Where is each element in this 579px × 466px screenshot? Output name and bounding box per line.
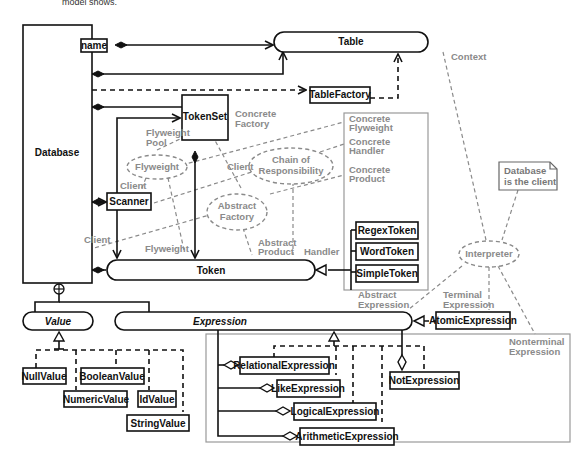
role-handler: Handler: [304, 246, 340, 257]
qualifier-name: name: [81, 39, 108, 52]
svg-text:Chain of: Chain of: [272, 154, 311, 165]
role-concrete-flyweight-2: Flyweight: [349, 122, 394, 133]
role-client-scanner: Client: [120, 180, 147, 191]
role-concrete-handler-2: Handler: [349, 145, 385, 156]
class-database[interactable]: Database: [23, 25, 92, 283]
uml-class-diagram: model shows.: [0, 0, 579, 466]
svg-text:RegexToken: RegexToken: [358, 225, 417, 236]
class-not-expression[interactable]: NotExpression: [389, 372, 460, 389]
svg-text:ArithmeticExpression: ArithmeticExpression: [295, 431, 398, 442]
role-terminal-expression-2: Expression: [443, 299, 494, 310]
svg-text:Database: Database: [504, 165, 546, 176]
svg-text:SimpleToken: SimpleToken: [356, 268, 418, 279]
svg-text:StringValue: StringValue: [130, 418, 185, 429]
svg-text:NumericValue: NumericValue: [63, 394, 130, 405]
svg-text:Scanner: Scanner: [109, 196, 149, 207]
pattern-interpreter: Interpreter: [459, 241, 519, 267]
role-client-chain: Client: [227, 161, 254, 172]
role-abstract-expression-2: Expression: [358, 299, 409, 310]
role-context: Context: [451, 51, 487, 62]
class-logical-expression[interactable]: LogicalExpression: [291, 403, 380, 420]
class-boolean-value[interactable]: BooleanValue: [79, 368, 145, 384]
pattern-abstract-factory: Abstract Factory: [207, 194, 267, 230]
role-nonterminal-expression-2: Expression: [509, 346, 560, 357]
class-word-token[interactable]: WordToken: [356, 243, 418, 260]
svg-text:BooleanValue: BooleanValue: [79, 371, 145, 382]
generalization-arrow-atomic: [414, 316, 424, 326]
class-null-value[interactable]: NullValue: [21, 368, 66, 384]
role-flyweight-token: Flyweight: [145, 243, 190, 254]
svg-text:AtomicExpression: AtomicExpression: [429, 315, 517, 326]
svg-text:Value: Value: [45, 316, 72, 327]
class-table-factory[interactable]: TableFactory: [309, 87, 371, 103]
svg-text:Interpreter: Interpreter: [465, 248, 513, 259]
role-client-database: Client: [84, 234, 111, 245]
class-string-value[interactable]: StringValue: [127, 415, 189, 431]
role-abstract-product-2: Product: [258, 246, 295, 257]
containment-circle-icon: [54, 284, 64, 294]
class-numeric-value[interactable]: NumericValue: [63, 391, 130, 407]
generalization-arrow-token: [316, 265, 326, 275]
class-token[interactable]: Token: [107, 260, 315, 280]
svg-text:is the client: is the client: [504, 176, 557, 187]
svg-text:LikeExpression: LikeExpression: [271, 383, 345, 394]
svg-text:WordToken: WordToken: [360, 246, 414, 257]
role-flyweight-pool-2: Pool: [146, 137, 167, 148]
generalization-arrow-expression: [329, 332, 339, 341]
class-relational-expression[interactable]: RelationalExpression: [233, 357, 335, 374]
svg-text:TableFactory: TableFactory: [309, 89, 371, 100]
svg-text:Factory: Factory: [220, 211, 255, 222]
svg-text:TokenSet: TokenSet: [183, 111, 228, 122]
svg-text:Expression: Expression: [193, 316, 247, 327]
svg-text:Table: Table: [338, 36, 364, 47]
svg-text:RelationalExpression: RelationalExpression: [233, 360, 335, 371]
svg-text:Database: Database: [35, 147, 80, 158]
svg-text:Responsibility: Responsibility: [259, 165, 325, 176]
truncated-header-text: model shows.: [62, 0, 117, 7]
class-table[interactable]: Table: [274, 32, 428, 52]
class-expression[interactable]: Expression: [115, 312, 412, 330]
generalization-arrow-value: [54, 332, 64, 341]
class-regex-token[interactable]: RegexToken: [356, 222, 418, 239]
class-id-value[interactable]: IdValue: [138, 391, 176, 407]
note-database-is-client: Database is the client: [499, 162, 557, 190]
svg-text:name: name: [81, 40, 108, 51]
class-like-expression[interactable]: LikeExpression: [271, 380, 345, 397]
role-concrete-product-2: Product: [349, 173, 386, 184]
class-arithmetic-expression[interactable]: ArithmeticExpression: [295, 428, 398, 445]
svg-text:Token: Token: [197, 265, 226, 276]
svg-text:LogicalExpression: LogicalExpression: [291, 406, 380, 417]
class-simple-token[interactable]: SimpleToken: [356, 265, 418, 282]
pattern-flyweight: Flyweight: [127, 155, 187, 179]
class-atomic-expression[interactable]: AtomicExpression: [429, 312, 517, 329]
svg-text:Flyweight: Flyweight: [135, 161, 180, 172]
svg-text:NullValue: NullValue: [21, 371, 66, 382]
pattern-chain-of-responsibility: Chain of Responsibility: [249, 148, 333, 184]
role-concrete-factory-2: Factory: [235, 118, 270, 129]
class-value[interactable]: Value: [23, 312, 93, 330]
svg-text:NotExpression: NotExpression: [389, 375, 460, 386]
svg-text:Abstract: Abstract: [218, 200, 257, 211]
svg-text:IdValue: IdValue: [139, 394, 174, 405]
class-scanner[interactable]: Scanner: [107, 193, 151, 210]
